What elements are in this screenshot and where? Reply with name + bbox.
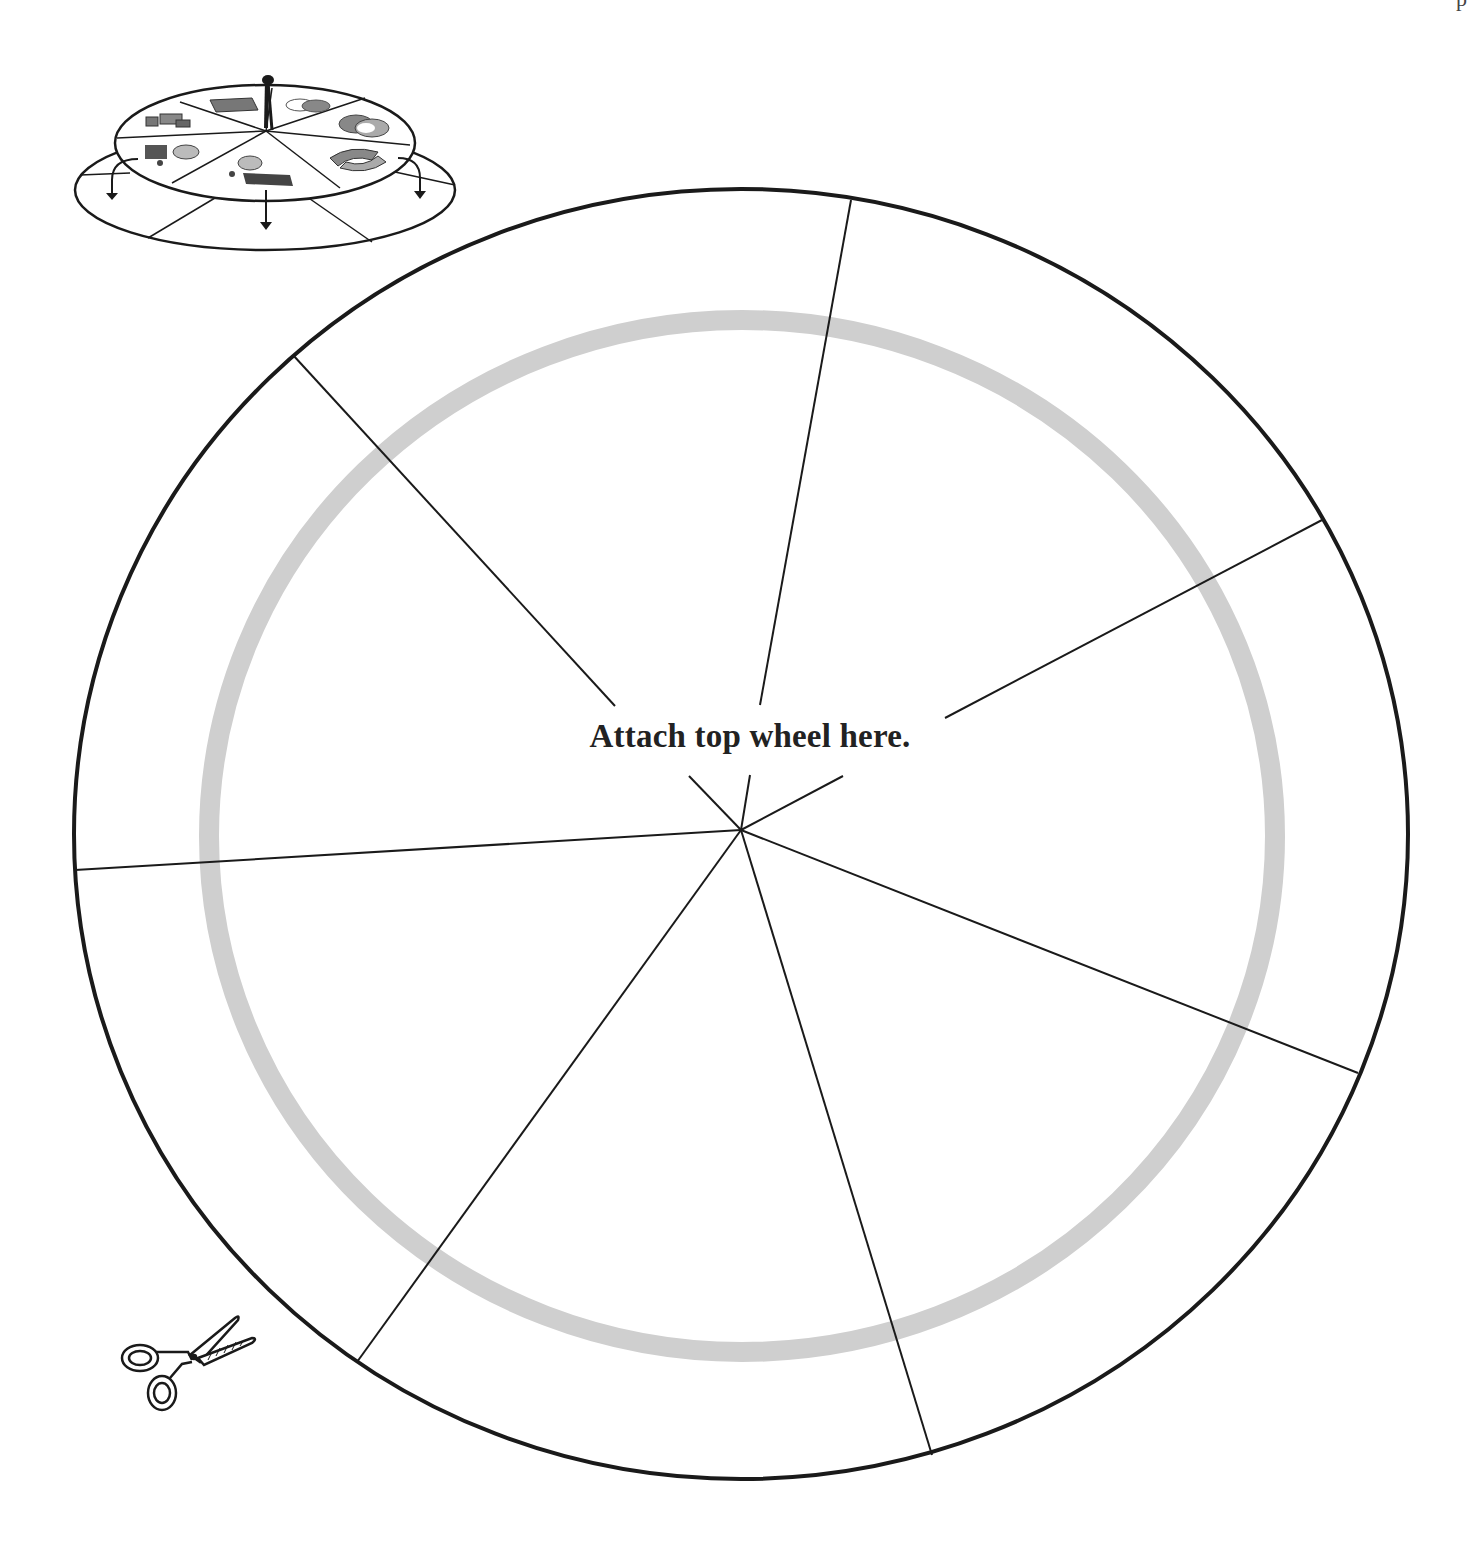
wheel-svg [0,0,1475,1550]
spoke-upper-left-inner [689,776,741,830]
spoke-top-inner [741,775,750,830]
spoke-top [760,200,851,705]
assembly-illustration [75,75,455,250]
spoke-upper-right-inner [741,776,843,830]
outer-cut-circle[interactable] [74,189,1408,1479]
attach-instruction: Attach top wheel here. [540,718,960,755]
wheel-cutout-page: p [0,0,1475,1550]
scissors-icon [122,1316,255,1410]
bottom-wheel [74,189,1408,1479]
document-icon [210,98,258,112]
spokes [75,200,1358,1455]
spoke-upper-right [945,520,1322,718]
spoke-bottom-left [357,830,741,1362]
spoke-left [75,830,741,870]
